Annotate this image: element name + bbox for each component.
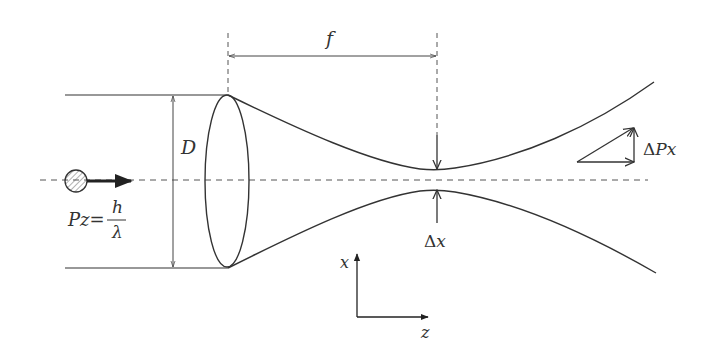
momentum-z-numerator: h [112,197,123,217]
momentum-transverse-var: Px [654,139,676,159]
particle-icon [65,170,87,192]
diameter-label: D [180,136,196,158]
delta-symbol: Δ [424,231,436,251]
beam-envelope-top [228,82,654,170]
delta-symbol: Δ [643,139,655,159]
momentum-z-denominator: λ [111,222,123,242]
axis-z-label: z [420,323,430,342]
optics-diagram: f D Δx Pz= h λ ΔPx x z [0,0,715,361]
focal-length-label: f [324,27,336,49]
momentum-z-label: Pz= [67,209,105,230]
waist-label: Δx [424,231,446,251]
axis-x-label: x [340,253,349,272]
lens [205,95,249,267]
momentum-total-vector [577,128,633,162]
momentum-transverse-label: ΔPx [643,139,677,159]
waist-var: x [436,231,446,251]
